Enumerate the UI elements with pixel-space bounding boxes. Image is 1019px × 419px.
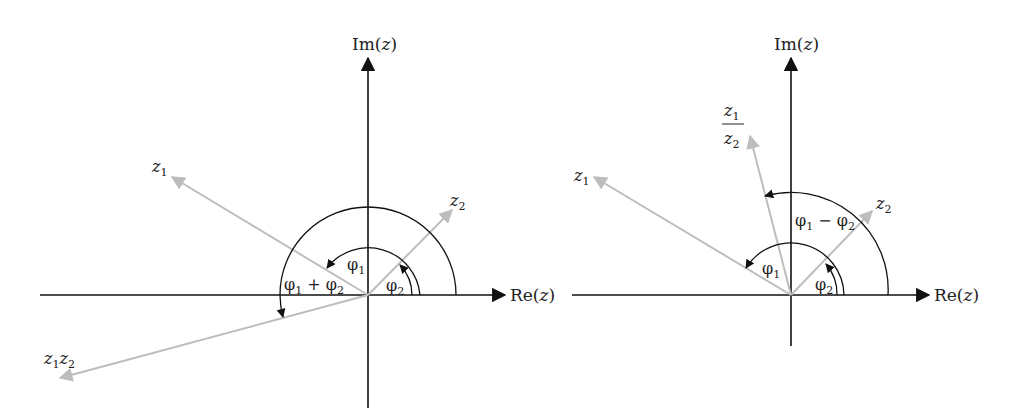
right-label-z2: z2 [875,194,891,216]
left-label-phi1-plus-phi2: φ1 + φ2 [284,275,344,297]
left-label-z2: z2 [449,191,465,213]
svg-text:z2: z2 [723,129,739,151]
right-re-label: Re(z) [934,285,979,305]
right-label-z1: z1 [573,166,589,188]
right-im-label: Im(z) [774,34,819,54]
left-label-phi1: φ1 [347,255,365,277]
svg-text:z1: z1 [723,101,739,123]
left-vector-z1z2 [60,295,368,378]
right-label-phi2: φ2 [815,275,833,297]
right-diagram: Im(z) Re(z) Re(z) z1 z2 z1 z2 φ1 φ2 φ1 −… [510,34,979,346]
right-label-z1-over-z2: z1 z2 [722,101,744,151]
left-im-label: Im(z) [352,34,397,54]
left-re-label: Re(z) [510,285,555,305]
left-label-z1: z1 [151,157,167,179]
left-label-phi2: φ2 [386,276,404,298]
left-label-z1z2: z1z2 [43,349,75,371]
right-label-phi1-minus-phi2: φ1 − φ2 [795,211,855,233]
left-vector-z1 [172,177,368,295]
right-label-phi1: φ1 [762,259,780,281]
left-diagram: Im(z) z1 z2 z1z2 φ1 φ2 φ1 + φ2 [40,34,505,408]
